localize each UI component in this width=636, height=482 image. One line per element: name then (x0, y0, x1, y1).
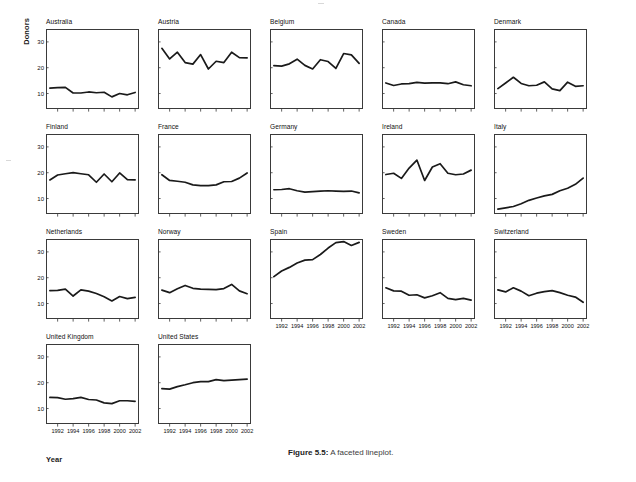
figure-caption-label: Figure 5.5: (288, 448, 328, 457)
series-line (498, 178, 583, 209)
x-tick-label: 1994 (291, 323, 303, 329)
facet-panel-united-states: United States199219941996199820002002 (158, 333, 251, 424)
facet-panel-germany: Germany (270, 123, 363, 214)
x-tick-label: 1992 (275, 323, 287, 329)
panel-title: Norway (158, 228, 181, 235)
x-tick-label: 1998 (322, 323, 334, 329)
figure-caption-text: A faceted lineplot. (328, 448, 393, 457)
plot-area (494, 29, 587, 113)
x-tick-label: 1998 (98, 428, 110, 434)
x-axis-title: Year (46, 455, 62, 464)
plot-area (158, 29, 251, 113)
plot-area (382, 134, 475, 218)
x-tick-labels: 199219941996199820002002 (270, 323, 363, 333)
panel-title: Netherlands (46, 228, 82, 235)
series-line (50, 289, 135, 301)
facet-panel-switzerland: Switzerland199219941996199820002002 (494, 228, 587, 319)
facet-panel-australia: Australia102030 (46, 18, 139, 109)
panel-title: Germany (270, 123, 297, 130)
panel-title: Belgium (270, 18, 294, 25)
x-tick-label: 1992 (163, 428, 175, 434)
x-tick-label: 1992 (499, 323, 511, 329)
x-tick-label: 1996 (418, 323, 430, 329)
panel-title: Canada (382, 18, 405, 25)
facet-panel-italy: Italy (494, 123, 587, 214)
y-tick-label: 10 (37, 301, 44, 307)
faceted-lineplot-figure: Donors Year Australia102030AustriaBelgiu… (0, 0, 636, 482)
series-line (498, 77, 583, 90)
x-tick-label: 1994 (67, 428, 79, 434)
facet-panel-france: France (158, 123, 251, 214)
y-tick-label: 20 (37, 380, 44, 386)
plot-area (270, 239, 363, 323)
y-tick-label: 10 (37, 91, 44, 97)
x-tick-label: 2002 (465, 323, 477, 329)
x-tick-labels: 199219941996199820002002 (494, 323, 587, 333)
y-tick-label: 20 (37, 170, 44, 176)
plot-area (494, 134, 587, 218)
y-tick-label: 30 (37, 354, 44, 360)
x-tick-label: 2000 (561, 323, 573, 329)
facet-panel-norway: Norway (158, 228, 251, 319)
series-line (274, 242, 359, 277)
series-line (162, 284, 247, 293)
panel-title: Australia (46, 18, 72, 25)
plot-area (158, 344, 251, 428)
facet-panel-austria: Austria (158, 18, 251, 109)
y-tick-label: 10 (37, 196, 44, 202)
y-axis-title-label: Donors (22, 18, 31, 78)
x-tick-label: 1998 (210, 428, 222, 434)
panel-title: Sweden (382, 228, 406, 235)
series-line (274, 189, 359, 193)
x-tick-label: 1994 (515, 323, 527, 329)
page-speck-top (318, 3, 324, 4)
plot-area (270, 134, 363, 218)
x-tick-label: 2000 (225, 428, 237, 434)
series-line (50, 173, 135, 183)
x-tick-label: 1996 (82, 428, 94, 434)
figure-caption: Figure 5.5: A faceted lineplot. (288, 448, 393, 457)
x-tick-label: 1994 (179, 428, 191, 434)
plot-area (46, 134, 139, 218)
series-line (162, 173, 247, 186)
facet-panel-ireland: Ireland (382, 123, 475, 214)
panel-title: Finland (46, 123, 68, 130)
x-tick-label: 1992 (51, 428, 63, 434)
series-line (50, 87, 135, 97)
x-tick-labels: 199219941996199820002002 (46, 428, 139, 438)
series-line (498, 288, 583, 302)
panel-title: Denmark (494, 18, 521, 25)
series-line (386, 160, 471, 180)
panel-title: Austria (158, 18, 179, 25)
x-tick-labels: 199219941996199820002002 (158, 428, 251, 438)
plot-area (270, 29, 363, 113)
plot-area (382, 29, 475, 113)
y-tick-label: 30 (37, 144, 44, 150)
series-line (50, 397, 135, 403)
plot-area (158, 134, 251, 218)
series-line (162, 379, 247, 389)
y-tick-label: 20 (37, 275, 44, 281)
series-line (274, 54, 359, 69)
x-tick-label: 1994 (403, 323, 415, 329)
panel-title: United Kingdom (46, 333, 94, 340)
x-tick-labels: 199219941996199820002002 (382, 323, 475, 333)
x-tick-label: 2000 (449, 323, 461, 329)
y-tick-label: 10 (37, 406, 44, 412)
panel-title: Ireland (382, 123, 403, 130)
series-line (386, 288, 471, 300)
panel-title: Spain (270, 228, 287, 235)
plot-area (46, 29, 139, 113)
x-tick-label: 1998 (546, 323, 558, 329)
plot-area (46, 239, 139, 323)
x-tick-label: 2000 (113, 428, 125, 434)
facet-panel-sweden: Sweden199219941996199820002002 (382, 228, 475, 319)
panel-title: United States (158, 333, 198, 340)
x-tick-label: 1996 (306, 323, 318, 329)
x-tick-label: 2002 (353, 323, 365, 329)
y-tick-label: 30 (37, 249, 44, 255)
series-line (386, 82, 471, 86)
plot-area (382, 239, 475, 323)
x-tick-label: 2002 (577, 323, 589, 329)
facet-panel-canada: Canada (382, 18, 475, 109)
